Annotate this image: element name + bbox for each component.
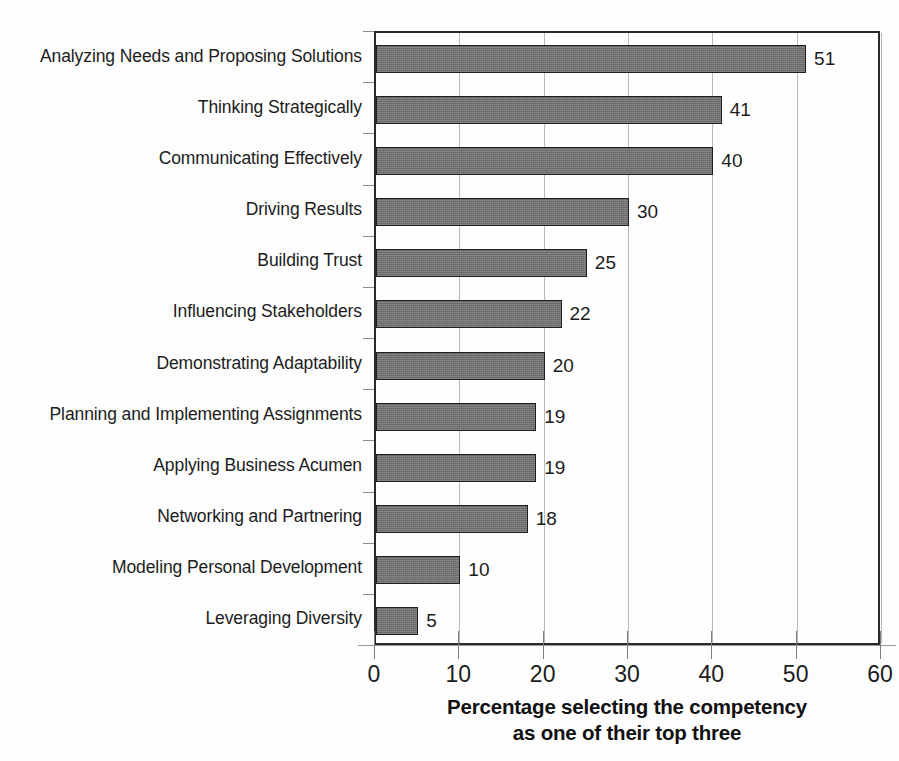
category-label: Building Trust (0, 252, 362, 270)
bar (376, 454, 536, 482)
bar-value-label: 51 (814, 49, 835, 68)
bar (376, 249, 587, 277)
x-tick-mark (796, 631, 797, 659)
category-label: Demonstrating Adaptability (0, 355, 362, 373)
x-tick-mark (627, 631, 628, 659)
chart-page: Analyzing Needs and Proposing SolutionsT… (0, 0, 899, 761)
category-label: Modeling Personal Development (0, 559, 362, 577)
bar (376, 147, 713, 175)
category-label: Leveraging Diversity (0, 610, 362, 628)
x-tick-label: 60 (867, 663, 893, 686)
bar (376, 505, 528, 533)
x-tick-label: 30 (614, 663, 640, 686)
bar (376, 607, 418, 635)
category-label: Networking and Partnering (0, 508, 362, 526)
x-tick-label: 50 (783, 663, 809, 686)
bar-value-label: 22 (570, 304, 591, 323)
caption-line-2: as one of their top three (374, 720, 880, 746)
bar (376, 96, 722, 124)
plot-area: 51414030252220191918105 (374, 31, 880, 645)
bar-value-label: 19 (544, 407, 565, 426)
bar (376, 556, 460, 584)
bar-value-label: 20 (553, 356, 574, 375)
x-tick-mark (711, 631, 712, 659)
category-label: Driving Results (0, 201, 362, 219)
bar-value-label: 5 (426, 611, 437, 630)
bar-value-label: 18 (536, 509, 557, 528)
bar-value-label: 19 (544, 458, 565, 477)
bar (376, 300, 562, 328)
category-label: Planning and Implementing Assignments (0, 406, 362, 424)
bar (376, 352, 545, 380)
x-axis: 0102030405060 (374, 645, 880, 646)
category-label-column: Analyzing Needs and Proposing SolutionsT… (0, 31, 368, 645)
x-tick-mark (543, 631, 544, 659)
category-label: Applying Business Acumen (0, 457, 362, 475)
category-label: Influencing Stakeholders (0, 303, 362, 321)
x-tick-mark (458, 631, 459, 659)
bar-value-label: 30 (637, 202, 658, 221)
category-label: Communicating Effectively (0, 150, 362, 168)
bar (376, 45, 806, 73)
bar-value-label: 41 (730, 100, 751, 119)
category-label: Thinking Strategically (0, 99, 362, 117)
x-tick-label: 0 (368, 663, 381, 686)
x-tick-label: 10 (446, 663, 472, 686)
bar (376, 403, 536, 431)
x-tick-label: 20 (530, 663, 556, 686)
x-tick-mark (374, 631, 375, 659)
category-label: Analyzing Needs and Proposing Solutions (0, 48, 362, 66)
x-tick-label: 40 (699, 663, 725, 686)
x-tick-mark (880, 631, 881, 659)
x-axis-caption: Percentage selecting the competency as o… (374, 694, 880, 746)
bar-value-label: 25 (595, 253, 616, 272)
bar-series: 51414030252220191918105 (376, 33, 878, 643)
caption-line-1: Percentage selecting the competency (374, 694, 880, 720)
gridline (881, 33, 882, 643)
bar-value-label: 40 (721, 151, 742, 170)
bar-value-label: 10 (468, 560, 489, 579)
bar (376, 198, 629, 226)
